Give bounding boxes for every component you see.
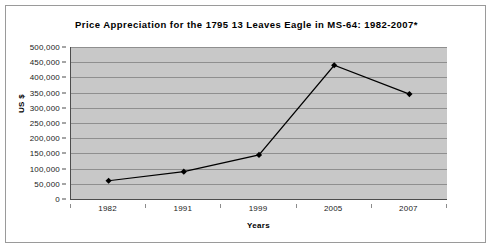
- y-axis-tick-mark: [62, 138, 66, 139]
- y-axis-tick-label: 450,000: [30, 58, 60, 67]
- y-axis-tick-label: 350,000: [30, 88, 60, 97]
- y-axis-tick-label: 0: [55, 195, 60, 204]
- chart-frame: Price Appreciation for the 1795 13 Leave…: [5, 5, 486, 243]
- x-axis-tick-labels: 19821991199920052007: [70, 204, 447, 218]
- line-series: [71, 47, 447, 199]
- y-axis-tick-labels: 500,000450,000400,000350,000300,000250,0…: [6, 47, 66, 199]
- plot-area: [70, 47, 447, 200]
- data-point-marker: [181, 169, 187, 175]
- x-axis-tick-mark: [220, 204, 221, 208]
- y-axis-tick-label: 200,000: [30, 134, 60, 143]
- x-axis-tick-label: 1991: [173, 204, 192, 213]
- x-axis-tick-mark: [446, 204, 447, 208]
- y-axis-tick-mark: [62, 107, 66, 108]
- y-axis-tick-mark: [62, 168, 66, 169]
- y-axis-tick-label: 250,000: [30, 119, 60, 128]
- x-axis-tick-label: 1982: [98, 204, 117, 213]
- data-point-marker: [406, 91, 412, 97]
- x-axis-tick-mark: [371, 204, 372, 208]
- y-axis-tick-label: 100,000: [30, 164, 60, 173]
- chart-title: Price Appreciation for the 1795 13 Leave…: [6, 19, 487, 30]
- y-axis-tick-mark: [62, 123, 66, 124]
- y-axis-tick-label: 50,000: [34, 179, 60, 188]
- y-axis-tick-label: 400,000: [30, 73, 60, 82]
- series-polyline: [109, 65, 410, 181]
- x-axis-title: Years: [70, 221, 447, 230]
- x-axis-tick-mark: [70, 204, 71, 208]
- y-axis-tick-mark: [62, 183, 66, 184]
- y-axis-tick-label: 500,000: [30, 43, 60, 52]
- y-axis-tick-mark: [62, 47, 66, 48]
- y-axis-tick-mark: [62, 153, 66, 154]
- y-axis-tick-label: 150,000: [30, 149, 60, 158]
- y-axis-tick-mark: [62, 77, 66, 78]
- y-axis-tick-mark: [62, 62, 66, 63]
- data-point-marker: [106, 178, 112, 184]
- x-axis-tick-label: 2007: [399, 204, 418, 213]
- x-axis-tick-mark: [145, 204, 146, 208]
- series-markers: [106, 62, 413, 184]
- y-axis-tick-label: 300,000: [30, 103, 60, 112]
- x-axis-tick-mark: [296, 204, 297, 208]
- y-axis-tick-mark: [62, 92, 66, 93]
- x-axis-tick-label: 1999: [249, 204, 268, 213]
- x-axis-tick-label: 2005: [324, 204, 343, 213]
- y-axis-tick-mark: [62, 199, 66, 200]
